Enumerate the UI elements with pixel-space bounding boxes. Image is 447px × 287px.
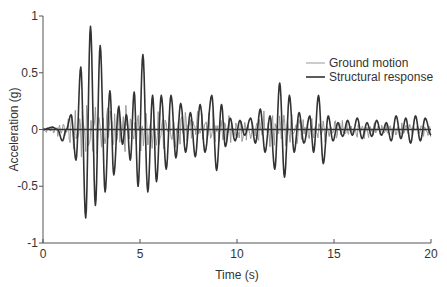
- y-tick-label: -1: [27, 236, 38, 250]
- x-tick-label: 15: [327, 247, 341, 261]
- structural-response-line: [43, 26, 431, 218]
- legend: Ground motionStructural response: [306, 56, 433, 84]
- x-tick-label: 10: [230, 247, 244, 261]
- x-axis-label: Time (s): [215, 268, 259, 282]
- legend-label-ground-motion: Ground motion: [329, 56, 408, 70]
- x-tick-label: 20: [424, 247, 438, 261]
- legend-label-structural-response: Structural response: [329, 70, 433, 84]
- y-axis-label: Acceleration (g): [7, 87, 21, 171]
- x-tick-label: 5: [137, 247, 144, 261]
- x-tick-label: 0: [40, 247, 47, 261]
- chart-container: -1-0.500.5105101520Time (s)Acceleration …: [0, 0, 447, 287]
- plot-area: [43, 26, 431, 218]
- y-tick-label: -0.5: [17, 179, 38, 193]
- y-tick-label: 0: [31, 123, 38, 137]
- axes: -1-0.500.5105101520Time (s)Acceleration …: [7, 9, 438, 282]
- acceleration-time-history-chart: -1-0.500.5105101520Time (s)Acceleration …: [0, 0, 447, 287]
- y-tick-label: 1: [31, 9, 38, 23]
- y-tick-label: 0.5: [21, 66, 38, 80]
